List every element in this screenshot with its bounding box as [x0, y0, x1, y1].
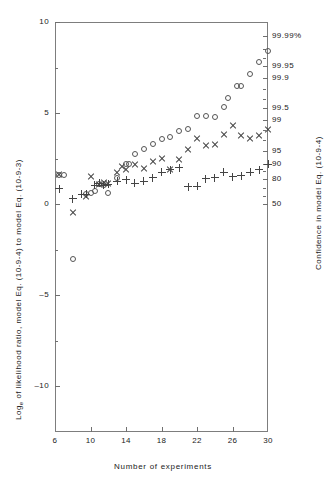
y-axis-left-tick-label: 0	[9, 199, 49, 208]
circle-marker-icon	[212, 114, 218, 120]
y-axis-right-tick-label: 50	[272, 199, 282, 208]
cross-marker-icon	[246, 135, 254, 143]
y-axis-right-tick	[263, 108, 268, 109]
circle-marker-icon	[150, 141, 156, 147]
x-axis-tick-label: 22	[182, 436, 212, 445]
y-axis-left-tick	[55, 22, 60, 23]
y-axis-left-tick-label: 10	[9, 17, 49, 26]
y-axis-left-minor-tick	[55, 341, 58, 342]
y-axis-right-tick-label: 99	[272, 115, 282, 124]
y-axis-left-minor-tick	[55, 159, 58, 160]
x-axis-tick	[233, 427, 234, 432]
y-axis-right-tick	[263, 66, 268, 67]
y-axis-right-tick-label: 80	[272, 174, 282, 183]
y-axis-left-tick-label: –5	[9, 290, 49, 299]
y-axis-right-minor-tick	[263, 140, 266, 141]
plus-marker-icon	[193, 182, 201, 190]
y-axis-right-tick	[263, 36, 268, 37]
y-axis-left-tick-label: –10	[9, 381, 49, 390]
plus-marker-icon	[264, 160, 272, 168]
cross-marker-icon	[175, 156, 183, 164]
x-axis-tick-label: 10	[76, 436, 106, 445]
plus-marker-icon	[184, 183, 192, 191]
plus-marker-icon	[246, 168, 254, 176]
circle-marker-icon	[159, 136, 165, 142]
y-axis-right-tick-label: 99.9	[272, 73, 289, 82]
y-axis-left-tick	[55, 204, 60, 205]
y-axis-left-title-rest: of likelihood ratio, model Eq. (10-9-4) …	[14, 159, 23, 401]
y-axis-right-tick	[263, 204, 268, 205]
y-axis-left-title-log: Log	[14, 405, 23, 420]
plus-marker-icon	[229, 173, 237, 181]
y-axis-right-minor-tick	[263, 58, 266, 59]
y-axis-right-tick-label: 90	[272, 159, 282, 168]
figure-scatter-plot: Loge of likelihood ratio, model Eq. (10-…	[0, 0, 326, 483]
plus-marker-icon	[175, 164, 183, 172]
cross-marker-icon	[184, 146, 192, 154]
x-axis-tick-label: 14	[111, 436, 141, 445]
cross-marker-icon	[69, 208, 77, 216]
x-axis-tick-label: 30	[253, 436, 283, 445]
y-axis-left-tick	[55, 113, 60, 114]
plus-marker-icon	[166, 166, 174, 174]
plus-marker-icon	[158, 168, 166, 176]
y-axis-right-tick	[263, 151, 268, 152]
circle-marker-icon	[194, 113, 200, 119]
cross-marker-icon	[87, 173, 95, 181]
cross-marker-icon	[237, 132, 245, 140]
circle-marker-icon	[203, 113, 209, 119]
circle-marker-icon	[185, 126, 191, 132]
plus-marker-icon	[140, 177, 148, 185]
plus-marker-icon	[131, 179, 139, 187]
cross-marker-icon	[55, 170, 63, 178]
cross-marker-icon	[255, 132, 263, 140]
y-axis-right-tick	[263, 120, 268, 121]
y-axis-right-tick-label: 99.95	[272, 61, 294, 70]
plus-marker-icon	[202, 175, 210, 183]
y-axis-left-tick-label: 5	[9, 108, 49, 117]
y-axis-right-minor-tick	[263, 89, 266, 90]
x-axis-title: Number of experiments	[0, 462, 326, 471]
cross-marker-icon	[140, 165, 148, 173]
cross-marker-icon	[202, 142, 210, 150]
cross-marker-icon	[122, 166, 130, 174]
plus-marker-icon	[149, 174, 157, 182]
x-axis-tick-label: 18	[147, 436, 177, 445]
circle-marker-icon	[265, 48, 271, 54]
y-axis-right-tick-label: 99.5	[272, 103, 289, 112]
cross-marker-icon	[158, 155, 166, 163]
y-axis-left-minor-tick	[55, 250, 58, 251]
cross-marker-icon	[211, 140, 219, 148]
plus-marker-icon	[104, 180, 112, 188]
y-axis-left-title-subscript: e	[18, 401, 24, 405]
x-axis-tick-label: 6	[40, 436, 70, 445]
y-axis-right-minor-tick	[263, 188, 266, 189]
x-axis-tick	[91, 427, 92, 432]
cross-marker-icon	[229, 122, 237, 130]
cross-marker-icon	[193, 135, 201, 143]
plus-marker-icon	[237, 172, 245, 180]
plus-marker-icon	[122, 176, 130, 184]
plus-marker-icon	[55, 185, 63, 193]
y-axis-right-tick-label: 95	[272, 146, 282, 155]
x-axis-tick	[197, 427, 198, 432]
cross-marker-icon	[131, 160, 139, 168]
x-axis-tick-label: 26	[218, 436, 248, 445]
y-axis-left-tick	[55, 386, 60, 387]
cross-marker-icon	[220, 131, 228, 139]
plus-marker-icon	[255, 166, 263, 174]
y-axis-right-title: Confidence in model Eq. (10-9-4)	[314, 136, 323, 270]
plus-marker-icon	[69, 195, 77, 203]
y-axis-right-tick-label: 99.99%	[272, 31, 302, 40]
plus-marker-icon	[82, 190, 90, 198]
circle-marker-icon	[70, 256, 76, 262]
circle-marker-icon	[132, 151, 138, 157]
circle-marker-icon	[221, 104, 227, 110]
circle-marker-icon	[141, 146, 147, 152]
y-axis-left-minor-tick	[55, 68, 58, 69]
y-axis-right-minor-tick	[263, 196, 266, 197]
y-axis-right-minor-tick	[263, 171, 266, 172]
cross-marker-icon	[264, 126, 272, 134]
circle-marker-icon	[225, 95, 231, 101]
y-axis-right-tick	[263, 78, 268, 79]
